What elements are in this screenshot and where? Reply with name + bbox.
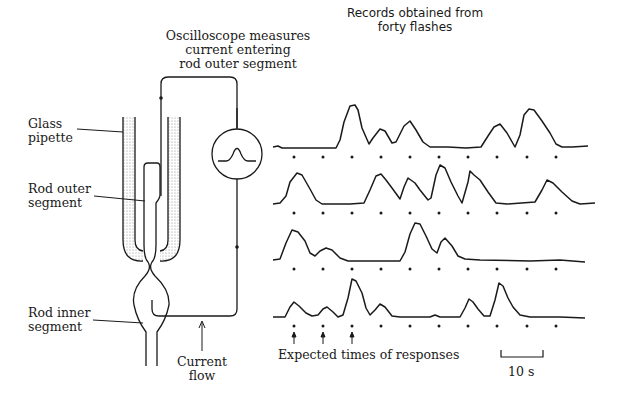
glass-pipette — [123, 117, 180, 261]
expected-times-label: Expected times of responses — [278, 348, 459, 362]
flash-dots-row-1 — [293, 156, 558, 159]
scale-bar — [501, 350, 543, 357]
oscilloscope-label-line-3: rod outer segment — [128, 57, 348, 71]
glass-pipette-label-line-1: Glass — [28, 117, 73, 131]
trace-row-3 — [273, 223, 585, 262]
records-title-line-1: Records obtained from — [340, 6, 490, 20]
trace-row-4 — [273, 279, 585, 318]
oscilloscope-label-line-2: current entering — [128, 43, 348, 57]
oscilloscope-label-line-1: Oscilloscope measures — [128, 29, 348, 43]
leader-lines — [77, 129, 205, 351]
rod-outer-segment-label-line-2: segment — [28, 196, 91, 210]
flash-dots — [293, 156, 558, 328]
rod-inner-segment-label-line-2: segment — [28, 320, 90, 334]
glass-pipette-label: Glass pipette — [28, 117, 73, 145]
current-flow-label-line-2: flow — [172, 369, 232, 383]
circuit-wire — [152, 77, 237, 316]
records-title-line-2: forty flashes — [340, 20, 490, 34]
current-flow-label-line-1: Current — [172, 355, 232, 369]
oscilloscope-label: Oscilloscope measures current entering r… — [128, 29, 348, 71]
rod-outer-segment-label: Rod outer segment — [28, 182, 91, 210]
scale-bar-label: 10 s — [508, 365, 534, 379]
glass-pipette-label-line-2: pipette — [28, 131, 73, 145]
trace-row-2 — [273, 165, 595, 204]
rod-inner-segment-label: Rod inner segment — [28, 306, 90, 334]
flash-dots-row-2 — [293, 212, 558, 215]
expected-time-arrows — [292, 332, 354, 344]
flash-dots-row-4 — [293, 325, 558, 328]
rod-outer-segment-label-line-1: Rod outer — [28, 182, 91, 196]
flash-dots-row-3 — [293, 268, 558, 271]
current-direction-dot — [235, 245, 239, 249]
current-flow-label: Current flow — [172, 355, 232, 383]
rod-cell — [133, 163, 169, 366]
oscilloscope-icon — [212, 129, 262, 179]
records-title: Records obtained from forty flashes — [340, 6, 490, 34]
records-traces — [273, 105, 595, 318]
current-direction-dot — [159, 96, 163, 100]
trace-row-1 — [273, 105, 588, 148]
rod-inner-segment-label-line-1: Rod inner — [28, 306, 90, 320]
